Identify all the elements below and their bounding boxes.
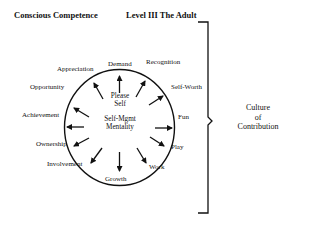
culture-line2: of bbox=[230, 113, 286, 123]
label-demand: Demand bbox=[108, 61, 132, 68]
center-self-mgmt: Self-Mgmt bbox=[98, 115, 142, 123]
label-achievement: Achievement bbox=[22, 112, 59, 119]
center-please: Please bbox=[98, 92, 142, 100]
culture-of-contribution: Culture of Contribution bbox=[230, 103, 286, 132]
label-opportunity: Opportunity bbox=[30, 84, 64, 91]
contribution-bracket bbox=[198, 22, 212, 213]
label-appreciation: Appreciation bbox=[57, 66, 94, 73]
arrow-opportunity bbox=[74, 108, 89, 117]
arrow-involvement bbox=[91, 148, 102, 163]
label-involvement: Involvement bbox=[47, 161, 82, 168]
center-self: Self bbox=[98, 100, 142, 108]
label-play: Play bbox=[171, 144, 183, 151]
label-self-worth: Self-Worth bbox=[171, 84, 202, 91]
label-ownership: Ownership bbox=[36, 141, 67, 148]
label-fun: Fun bbox=[178, 114, 189, 121]
center-text: Please Self Self-Mgmt Mentality bbox=[98, 92, 142, 131]
arrow-self-worth bbox=[149, 96, 163, 105]
label-growth: Growth bbox=[105, 176, 126, 183]
arrow-work bbox=[137, 148, 146, 163]
culture-line3: Contribution bbox=[230, 122, 286, 132]
label-recognition: Recognition bbox=[146, 59, 180, 66]
arrow-ownership bbox=[74, 138, 89, 146]
arrow-play bbox=[150, 137, 164, 146]
culture-line1: Culture bbox=[230, 103, 286, 113]
center-mentality: Mentality bbox=[98, 123, 142, 131]
label-work: Work bbox=[149, 164, 164, 171]
